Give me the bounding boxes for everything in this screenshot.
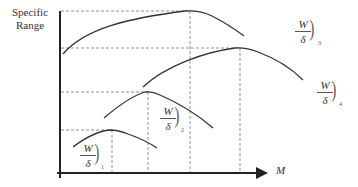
x-axis-label: M [276, 164, 285, 176]
curve-4-label: W δ [317, 79, 333, 107]
curve-3 [63, 11, 244, 54]
curve-3-label: W δ [295, 18, 311, 46]
curve-3-subscript: 3 [318, 40, 321, 46]
curve-3-paren: ) [310, 16, 315, 40]
curve-2-label: W δ [160, 105, 176, 133]
x-axis-arrowhead [256, 167, 268, 179]
curve-4 [143, 48, 303, 87]
y-axis-label: Specific Range [4, 6, 56, 32]
curve-2 [104, 92, 213, 128]
curve-1-subscript: 1 [101, 164, 104, 170]
curve-4-subscript: 4 [339, 101, 342, 107]
curve-2-paren: ) [175, 103, 180, 127]
curve-1-paren: ) [95, 140, 100, 164]
curve-1-label: W δ [80, 142, 96, 170]
curve-4-paren: ) [332, 77, 337, 101]
curve-2-subscript: 2 [181, 127, 184, 133]
